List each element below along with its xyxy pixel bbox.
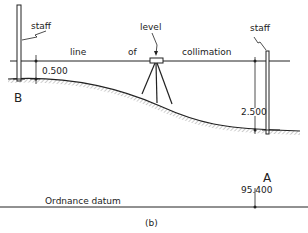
staff-b [13, 5, 25, 81]
levelling-diagram: staff staff level line of collimation 0.… [0, 0, 308, 233]
point-b-label: B [14, 91, 22, 105]
reading-a: 2.500 [241, 107, 267, 117]
diagram-svg: staff staff level line of collimation 0.… [0, 0, 308, 233]
level-instrument [142, 58, 172, 104]
line-word-line: line [70, 47, 87, 57]
staff-right-label: staff [250, 23, 271, 33]
reading-b: 0.500 [42, 66, 68, 76]
level-label: level [140, 22, 161, 32]
line-word-of: of [128, 47, 138, 57]
datum-label: Ordnance datum [45, 196, 121, 206]
point-a-label: A [263, 171, 272, 185]
level-arrowhead [154, 51, 158, 56]
staff-left-leader [22, 31, 46, 40]
level-leader [152, 33, 157, 54]
reduced-level-a: 95.400 [241, 185, 273, 195]
figure-caption: (b) [145, 218, 158, 228]
staff-left-label: staff [31, 21, 52, 31]
staff-right-leader [254, 37, 266, 50]
line-word-collimation: collimation [182, 47, 231, 57]
staff-a [262, 51, 280, 134]
